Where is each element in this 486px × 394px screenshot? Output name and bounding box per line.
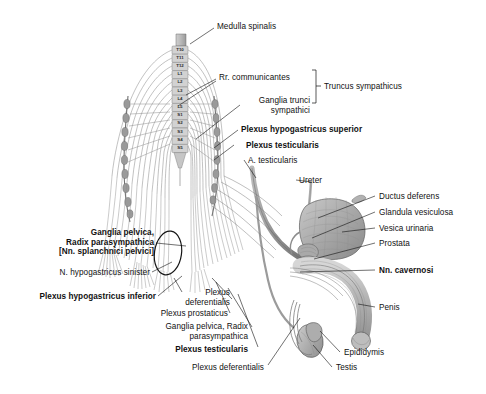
segment-label-t12: T12 xyxy=(172,64,188,69)
label-vesica-urinaria: Vesica urinaria xyxy=(379,224,433,234)
spinal-nerve-root-arcs xyxy=(112,50,224,200)
segment-label-t10: T10 xyxy=(172,48,188,53)
label-plexus-hypogastricus-inferior: Plexus hypogastricus inferior xyxy=(4,292,156,302)
label-ganglia-pelvica-left: Ganglia pelvica, Radix parasympathica [N… xyxy=(6,228,154,257)
label-medulla-spinalis: Medulla spinalis xyxy=(217,22,276,32)
segment-label-s3: S3 xyxy=(172,130,188,135)
label-a-testicularis: A. testicularis xyxy=(248,156,297,166)
label-truncus-sympathicus: Truncus sympathicus xyxy=(324,82,402,92)
anatomy-figure: T10 T11 T12 L1 L2 L3 L4 L5 S1 S2 S3 S4 S… xyxy=(0,0,486,394)
truncus-sympathicus-bracket xyxy=(312,70,321,103)
segment-label-l3: L3 xyxy=(172,89,188,94)
label-plexus-prostaticus: Plexus prostaticus xyxy=(140,309,228,319)
pelvic-organ-group xyxy=(290,195,371,359)
label-glandula-vesiculosa: Glandula vesiculosa xyxy=(379,208,453,218)
label-testis: Testis xyxy=(336,363,357,373)
label-ureter: Ureter xyxy=(299,176,322,186)
label-rr-communicantes: Rr. communicantes xyxy=(219,73,290,83)
segment-label-l5: L5 xyxy=(172,105,188,110)
segment-label-s4: S4 xyxy=(172,138,188,143)
label-nn-cavernosi: Nn. cavernosi xyxy=(379,266,433,276)
label-plexus-testicularis-lower: Plexus testicularis xyxy=(150,345,248,355)
segment-label-t11: T11 xyxy=(172,56,188,61)
label-plexus-testicularis-upper: Plexus testicularis xyxy=(246,141,319,151)
segment-label-s5: S5 xyxy=(172,146,188,151)
label-plexus-deferentialis-upper: Plexus deferentialis xyxy=(150,288,230,307)
label-ganglia-trunci-sympathici: Ganglia trunci sympathici xyxy=(232,96,310,115)
label-plexus-hypogastricus-superior: Plexus hypogastricus superior xyxy=(241,125,362,135)
label-n-hypogastricus-sinister: N. hypogastricus sinister xyxy=(8,268,150,278)
segment-label-l4: L4 xyxy=(172,97,188,102)
segment-label-l1: L1 xyxy=(172,72,188,77)
segment-label-s2: S2 xyxy=(172,121,188,126)
truncus-sympathicus-left xyxy=(121,96,133,222)
label-ductus-deferens: Ductus deferens xyxy=(379,192,439,202)
segment-label-s1: S1 xyxy=(172,113,188,118)
label-ganglia-pelvica-radix: Ganglia pelvica, Radix parasympathica xyxy=(140,322,248,341)
label-plexus-deferentialis-lower: Plexus deferentialis xyxy=(158,363,264,373)
label-prostata: Prostata xyxy=(379,239,410,249)
segment-label-l2: L2 xyxy=(172,80,188,85)
label-penis: Penis xyxy=(379,303,400,313)
label-epididymis: Epididymis xyxy=(344,348,384,358)
